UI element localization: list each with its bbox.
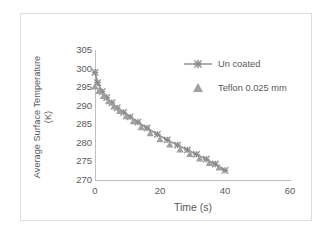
triangle-marker-icon	[183, 79, 213, 97]
data-point-marker-triangle	[138, 124, 145, 131]
x-tick-label: 40	[210, 184, 240, 197]
y-tick-label: 295	[76, 81, 92, 93]
data-point-marker-x	[92, 69, 98, 75]
x-axis-tick-labels: 0204060	[95, 184, 295, 198]
y-tick-label: 285	[76, 118, 92, 130]
chart-legend: Un coated Teflon 0.025 mm	[183, 55, 308, 103]
y-axis-title-line2: (K)	[43, 111, 55, 123]
y-tick-label: 275	[76, 155, 92, 167]
y-axis-title: Average Surface Temperature (K)	[22, 25, 62, 190]
line-x-marker-icon	[183, 55, 213, 73]
legend-item-teflon: Teflon 0.025 mm	[183, 79, 308, 103]
x-tick-label: 0	[80, 184, 110, 197]
legend-label-uncoated: Un coated	[218, 55, 260, 73]
data-point-marker-x	[144, 125, 150, 131]
data-point-marker-x	[222, 167, 228, 173]
legend-label-teflon: Teflon 0.025 mm	[218, 79, 287, 97]
x-axis-line	[95, 180, 291, 181]
x-tick-label: 20	[145, 184, 175, 197]
x-tick-label: 60	[275, 184, 305, 197]
data-point-marker-triangle	[147, 130, 154, 137]
y-tick-label: 280	[76, 137, 92, 149]
data-point-marker-x	[193, 151, 199, 157]
y-tick-label: 305	[76, 44, 92, 56]
y-tick-label: 290	[76, 100, 92, 112]
y-tick-label: 300	[76, 63, 92, 75]
chart-figure: Average Surface Temperature (K) 30530029…	[0, 0, 335, 235]
y-axis-tick-labels: 305300295290285280275270	[60, 44, 94, 186]
y-axis-title-line1: Average Surface Temperature	[31, 56, 43, 178]
legend-item-uncoated: Un coated	[183, 55, 308, 79]
x-axis-title: Time (s)	[95, 201, 291, 213]
data-point-marker-x	[212, 161, 218, 167]
